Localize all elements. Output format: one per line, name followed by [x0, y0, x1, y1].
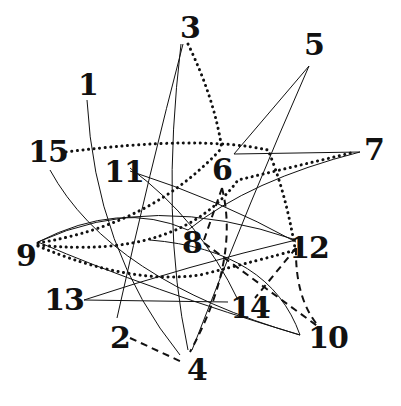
- node-2: 2: [110, 323, 130, 353]
- node-8: 8: [182, 228, 202, 258]
- edge-3-4: [172, 44, 188, 350]
- edge-9-12: [38, 246, 296, 277]
- edge-5-6: [234, 66, 360, 154]
- node-10: 10: [308, 323, 348, 353]
- node-7: 7: [364, 135, 384, 165]
- node-14: 14: [230, 293, 270, 323]
- node-15: 15: [28, 137, 68, 167]
- edge-6-8: [204, 188, 222, 240]
- edge-15-12: [66, 143, 295, 248]
- node-4: 4: [187, 355, 207, 385]
- edge-3-6: [188, 44, 222, 150]
- node-12: 12: [289, 233, 329, 263]
- edge-1-4: [87, 100, 180, 355]
- node-13: 13: [44, 285, 84, 315]
- edge-6-4: [190, 188, 227, 352]
- edge-2-4: [130, 338, 182, 362]
- node-1: 1: [78, 70, 98, 100]
- node-9: 9: [16, 241, 36, 271]
- node-5: 5: [304, 30, 324, 60]
- node-3: 3: [180, 13, 200, 43]
- node-11: 11: [104, 157, 144, 187]
- edge-9-curve: [38, 215, 296, 242]
- node-6: 6: [212, 155, 232, 185]
